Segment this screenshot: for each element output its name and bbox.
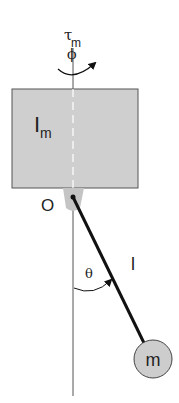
- pivot-label: O: [41, 196, 54, 215]
- mass-label: m: [146, 350, 161, 370]
- pendulum-diagram: τ m ϕ I m O θ l m: [0, 0, 179, 403]
- length-label: l: [131, 254, 135, 274]
- torque-arrow: [58, 63, 95, 75]
- rotor-angle-label: ϕ: [67, 46, 77, 62]
- pendulum-angle-label: θ: [85, 266, 93, 281]
- inertia-subscript: m: [40, 125, 52, 141]
- pivot-point: [71, 195, 76, 200]
- rotor-body: [12, 89, 138, 188]
- theta-arrow: [74, 280, 111, 291]
